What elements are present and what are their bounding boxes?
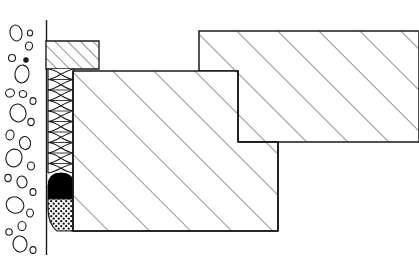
top-left-block-outline [46,41,99,69]
backer-rod [48,199,74,231]
aggregate-pebble [24,58,28,62]
top-left-block [46,41,99,69]
construction-detail-svg [0,0,419,269]
detail-drawing-canvas [0,0,419,269]
joint-filler-strip [48,69,74,173]
